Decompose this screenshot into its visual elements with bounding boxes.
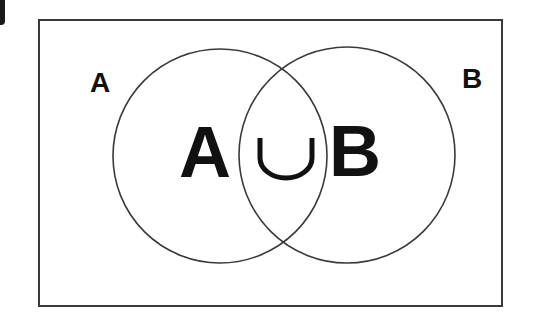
venn-diagram-canvas: A B A B <box>0 0 538 313</box>
venn-diagram-figure: A B A B <box>0 0 538 313</box>
set-a-label: A <box>90 67 110 98</box>
expression-left-operand: A <box>179 112 231 192</box>
universe-rectangle <box>39 20 502 306</box>
union-operator-icon <box>260 138 312 178</box>
cropped-letter-fragment <box>0 0 5 25</box>
set-b-label: B <box>462 63 482 94</box>
expression-right-operand: B <box>329 111 381 191</box>
